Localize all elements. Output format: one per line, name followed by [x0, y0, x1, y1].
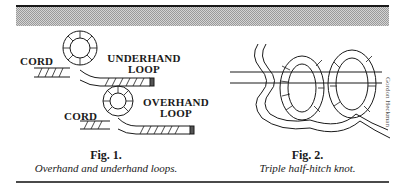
underhand-loop-label: UNDERHAND LOOP	[104, 53, 184, 75]
figure-2-illustration	[210, 26, 406, 144]
figure-1-illustration: CORD UNDERHAND LOOP CORD OVERHAND LOOP	[0, 26, 215, 144]
rope-loops-drawing	[0, 26, 215, 144]
bottom-rule	[16, 181, 389, 183]
overhand-label-line2: LOOP	[140, 108, 212, 119]
figure-1-title: Fig. 1.	[0, 149, 212, 162]
figure-2-caption-text: Triple half-hitch knot.	[215, 162, 400, 175]
underhand-label-line2: LOOP	[104, 64, 184, 75]
overhand-loop-label: OVERHAND LOOP	[140, 97, 212, 119]
cord-label-bottom: CORD	[64, 111, 97, 122]
cord-label-top: CORD	[20, 56, 53, 67]
top-decorative-band	[16, 5, 389, 26]
illustrator-credit: Gordon Heckman	[383, 64, 393, 140]
credit-text: Gordon Heckman	[384, 77, 392, 127]
half-hitch-knot-drawing	[210, 26, 406, 144]
figure-2-title: Fig. 2.	[215, 149, 400, 162]
figure-1-caption-text: Overhand and underhand loops.	[0, 162, 212, 175]
figure-1-caption: Fig. 1. Overhand and underhand loops.	[0, 149, 212, 175]
figure-2-caption: Fig. 2. Triple half-hitch knot.	[215, 149, 400, 175]
